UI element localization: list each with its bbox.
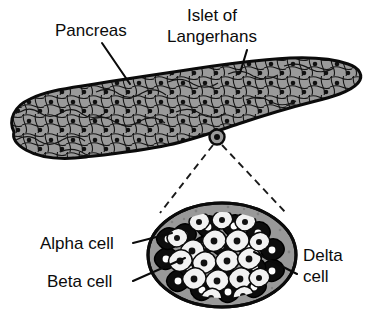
pancreas-organ	[12, 58, 361, 159]
pancreas-body-shape	[12, 58, 361, 159]
leader-pancreas	[102, 43, 130, 84]
label-pancreas: Pancreas	[55, 21, 127, 40]
label-islet-line2: Langerhans	[167, 27, 257, 46]
diagram-canvas: Pancreas Islet of Langerhans Alpha cell …	[0, 0, 367, 319]
label-delta-line1: Delta	[303, 246, 343, 265]
label-delta-line2: cell	[303, 267, 329, 286]
pancreas-islet-diagram: Pancreas Islet of Langerhans Alpha cell …	[0, 0, 367, 319]
label-alpha-cell: Alpha cell	[40, 234, 114, 253]
magnified-islet	[148, 203, 296, 307]
islet-marker-on-pancreas	[210, 130, 225, 145]
label-islet-line1: Islet of	[187, 6, 237, 25]
label-beta-cell: Beta cell	[47, 272, 112, 291]
